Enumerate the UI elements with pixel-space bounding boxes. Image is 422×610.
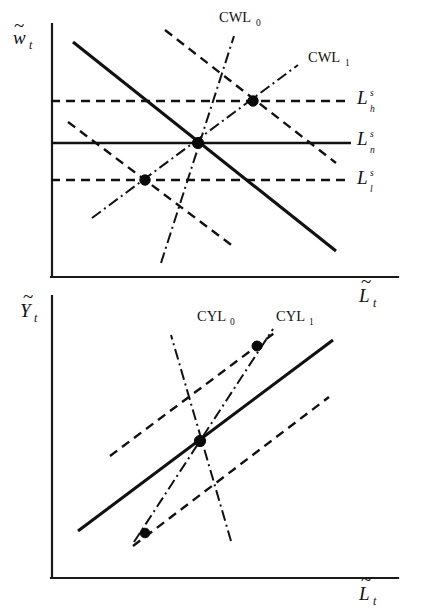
l-axis-base-bottom: L bbox=[358, 583, 370, 604]
cyl0-label-text: CYL bbox=[197, 308, 226, 324]
marker-output-low bbox=[140, 528, 150, 538]
cyl1-label-subscript: 1 bbox=[309, 317, 314, 327]
lsn-subscript: n bbox=[370, 145, 375, 155]
cwl0-label-text: CWL bbox=[219, 9, 251, 25]
cyl1-label-text: CYL bbox=[276, 308, 305, 324]
lsh-base: L bbox=[356, 87, 368, 108]
cwl1-label-text: CWL bbox=[308, 49, 340, 65]
l-axis-base-top: L bbox=[358, 285, 370, 306]
lsl-subscript: l bbox=[370, 184, 373, 194]
marker-equilibrium-normal bbox=[192, 137, 203, 148]
lsl-base: L bbox=[356, 167, 368, 188]
marker-output-high bbox=[252, 341, 262, 351]
cyl0-label-subscript: 0 bbox=[230, 317, 235, 327]
lsn-base: L bbox=[356, 128, 368, 149]
lsh-superscript: s bbox=[370, 88, 374, 98]
cwl0-label-subscript: 0 bbox=[256, 18, 261, 28]
cwl1-label-subscript: 1 bbox=[345, 58, 350, 68]
marker-equilibrium-low bbox=[140, 175, 150, 185]
lsl-superscript: s bbox=[370, 168, 374, 178]
lsh-subscript: h bbox=[370, 104, 375, 114]
economics-figure: ~ w t ~ L t CWL 0 CWL 1 L s h L s bbox=[0, 0, 422, 610]
lsn-superscript: s bbox=[370, 129, 374, 139]
w-axis-base: w bbox=[13, 27, 26, 48]
marker-output-normal bbox=[194, 435, 205, 446]
marker-equilibrium-high bbox=[248, 96, 258, 106]
